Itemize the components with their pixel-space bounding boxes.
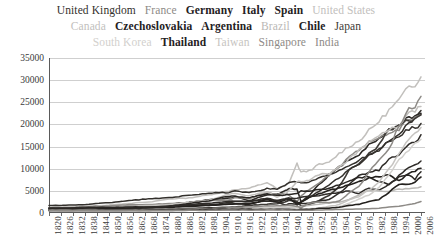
x-tick-label: 1964	[341, 216, 351, 235]
x-tick-mark	[385, 213, 386, 216]
legend-item-united-states[interactable]: United States	[312, 2, 375, 18]
x-tick-mark	[145, 213, 146, 216]
legend-item-chile[interactable]: Chile	[299, 18, 326, 34]
y-tick-label: 30000	[0, 75, 44, 85]
x-tick-label: 1832	[77, 216, 87, 235]
x-tick-label: 1850	[113, 216, 123, 235]
x-tick-label: 1952	[317, 216, 327, 235]
x-tick-mark	[73, 213, 74, 216]
x-tick-mark	[325, 213, 326, 216]
legend-item-united-kingdom[interactable]: United Kingdom	[57, 2, 136, 18]
x-tick-label: 1928	[269, 216, 279, 235]
x-tick-mark	[301, 213, 302, 216]
x-tick-label: 1886	[185, 216, 195, 235]
x-tick-mark	[241, 213, 242, 216]
x-tick-mark	[85, 213, 86, 216]
x-tick-mark	[121, 213, 122, 216]
x-tick-mark	[265, 213, 266, 216]
x-tick-label: 1982	[377, 216, 387, 235]
series-lines	[49, 58, 425, 213]
x-tick-mark	[289, 213, 290, 216]
x-tick-mark	[337, 213, 338, 216]
x-tick-mark	[253, 213, 254, 216]
x-tick-mark	[313, 213, 314, 216]
legend-item-argentina[interactable]: Argentina	[201, 18, 252, 34]
y-tick-label: 20000	[0, 119, 44, 129]
x-tick-mark	[157, 213, 158, 216]
x-tick-label: 1862	[137, 216, 147, 235]
y-tick-label: 0	[0, 208, 44, 218]
x-tick-label: 1880	[173, 216, 183, 235]
x-tick-mark	[205, 213, 206, 216]
legend-item-south-korea[interactable]: South Korea	[93, 34, 152, 50]
y-tick-label: 5000	[0, 186, 44, 196]
x-tick-label: 1916	[245, 216, 255, 235]
x-tick-label: 1958	[329, 216, 339, 235]
x-tick-label: 1970	[353, 216, 363, 235]
x-tick-label: 1994	[401, 216, 411, 235]
x-tick-mark	[229, 213, 230, 216]
x-tick-label: 1856	[125, 216, 135, 235]
x-tick-mark	[349, 213, 350, 216]
y-tick-label: 25000	[0, 97, 44, 107]
legend-item-italy[interactable]: Italy	[242, 2, 266, 18]
legend-item-spain[interactable]: Spain	[275, 2, 304, 18]
legend-row-3: South KoreaThailandTaiwanSingaporeIndia	[0, 34, 432, 50]
x-tick-mark	[421, 213, 422, 216]
y-tick-label: 15000	[0, 142, 44, 152]
legend-row-2: CanadaCzechoslovakiaArgentinaBrazilChile…	[0, 18, 432, 34]
x-tick-label: 1976	[365, 216, 375, 235]
x-tick-mark	[277, 213, 278, 216]
x-tick-mark	[409, 213, 410, 216]
legend: United KingdomFranceGermanyItalySpainUni…	[0, 0, 432, 50]
legend-item-thailand[interactable]: Thailand	[161, 34, 207, 50]
x-tick-mark	[193, 213, 194, 216]
x-tick-label: 1838	[89, 216, 99, 235]
series-line-united-states	[49, 77, 421, 208]
x-tick-label: 1892	[197, 216, 207, 235]
legend-item-canada[interactable]: Canada	[71, 18, 106, 34]
x-tick-mark	[373, 213, 374, 216]
legend-row-1: United KingdomFranceGermanyItalySpainUni…	[0, 2, 432, 18]
x-tick-label: 2000	[413, 216, 423, 235]
x-tick-mark	[361, 213, 362, 216]
legend-item-taiwan[interactable]: Taiwan	[215, 34, 249, 50]
x-tick-label: 1940	[293, 216, 303, 235]
y-tick-label: 10000	[0, 164, 44, 174]
x-tick-label: 1946	[305, 216, 315, 235]
x-tick-label: 1826	[65, 216, 75, 235]
legend-item-brazil[interactable]: Brazil	[261, 18, 290, 34]
x-tick-mark	[169, 213, 170, 216]
legend-item-japan[interactable]: Japan	[334, 18, 361, 34]
x-tick-mark	[217, 213, 218, 216]
x-tick-label: 1874	[161, 216, 171, 235]
x-tick-label: 2006	[425, 216, 435, 235]
legend-item-india[interactable]: India	[315, 34, 339, 50]
x-tick-label: 1904	[221, 216, 231, 235]
legend-item-france[interactable]: France	[145, 2, 177, 18]
x-tick-label: 1988	[389, 216, 399, 235]
x-tick-label: 1898	[209, 216, 219, 235]
x-tick-mark	[61, 213, 62, 216]
x-tick-mark	[181, 213, 182, 216]
y-tick-label: 35000	[0, 53, 44, 63]
x-tick-label: 1844	[101, 216, 111, 235]
legend-item-czechoslovakia[interactable]: Czechoslovakia	[115, 18, 192, 34]
legend-item-germany[interactable]: Germany	[186, 2, 233, 18]
x-tick-label: 1820	[53, 216, 63, 235]
x-tick-mark	[133, 213, 134, 216]
x-tick-mark	[397, 213, 398, 216]
x-tick-mark	[49, 213, 50, 216]
x-tick-label: 1934	[281, 216, 291, 235]
x-tick-label: 1922	[257, 216, 267, 235]
x-tick-mark	[109, 213, 110, 216]
x-tick-label: 1910	[233, 216, 243, 235]
x-tick-mark	[97, 213, 98, 216]
x-tick-label: 1868	[149, 216, 159, 235]
legend-item-singapore[interactable]: Singapore	[259, 34, 307, 50]
